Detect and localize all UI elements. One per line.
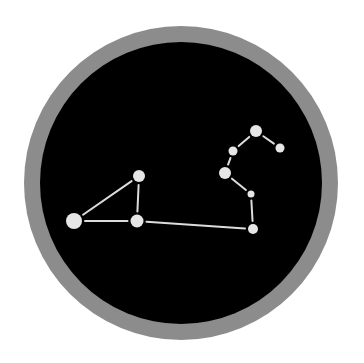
- leo-constellation-icon: [0, 0, 364, 363]
- star-icon-A: [66, 213, 82, 229]
- star-icon-D: [248, 224, 258, 234]
- star-icon-F: [219, 167, 231, 179]
- star-icon-I: [276, 144, 285, 153]
- constellation-line-D-E: [251, 200, 252, 221]
- star-icon-C: [131, 215, 144, 228]
- constellation-line-B-C: [137, 185, 138, 212]
- night-sky-disc: [40, 42, 322, 324]
- star-icon-H: [250, 125, 262, 137]
- star-icon-G: [229, 147, 238, 156]
- star-icon-E: [248, 191, 255, 198]
- constellation-svg: [0, 0, 364, 363]
- star-icon-B: [133, 170, 145, 182]
